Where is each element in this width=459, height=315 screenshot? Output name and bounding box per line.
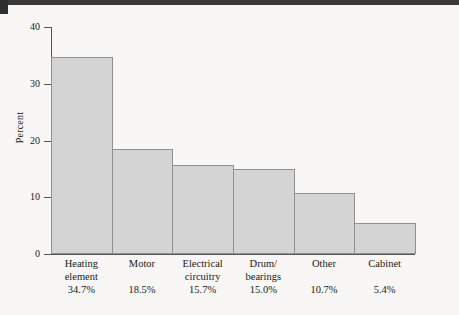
y-axis-tick <box>44 141 51 142</box>
category-name: Motor <box>112 258 173 271</box>
bar-series <box>51 27 415 254</box>
y-axis-tick <box>44 254 51 255</box>
bar <box>112 149 174 254</box>
category-percent: 34.7% <box>51 284 112 297</box>
y-axis-tick-label: 20 <box>16 136 40 146</box>
x-axis-category-label: Motor18.5% <box>112 258 173 297</box>
category-percent: 15.7% <box>172 284 233 297</box>
category-percent: 18.5% <box>112 284 173 297</box>
y-axis-tick <box>44 27 51 28</box>
y-axis-tick-label: 30 <box>16 79 40 89</box>
x-axis-line <box>51 254 415 255</box>
category-name: Other <box>294 258 355 271</box>
y-axis-title: Percent <box>14 98 25 158</box>
y-axis-tick <box>44 84 51 85</box>
x-axis-category-label: Cabinet5.4% <box>354 258 415 297</box>
category-name: Heating element <box>51 258 112 283</box>
bar-chart-figure: Percent 010203040 Heating element34.7%Mo… <box>0 0 459 315</box>
category-name: Electrical circuitry <box>172 258 233 283</box>
x-axis-category-label: Drum/ bearings15.0% <box>233 258 294 297</box>
x-axis-category-label: Heating element34.7% <box>51 258 112 297</box>
x-axis-category-labels: Heating element34.7%Motor18.5%Electrical… <box>51 258 415 310</box>
y-axis-tick <box>44 197 51 198</box>
bar <box>294 193 356 254</box>
category-percent: 5.4% <box>354 284 415 297</box>
category-percent: 10.7% <box>294 284 355 297</box>
x-axis-category-label: Electrical circuitry15.7% <box>172 258 233 297</box>
y-axis-tick-label: 0 <box>16 249 40 259</box>
bar <box>354 223 416 254</box>
bar <box>172 165 234 254</box>
x-axis-category-label: Other10.7% <box>294 258 355 297</box>
category-name: Drum/ bearings <box>233 258 294 283</box>
bar <box>233 169 295 254</box>
y-axis-tick-label: 40 <box>16 22 40 32</box>
y-axis-tick-label: 10 <box>16 192 40 202</box>
category-percent: 15.0% <box>233 284 294 297</box>
bar <box>51 57 113 254</box>
category-name: Cabinet <box>354 258 415 271</box>
